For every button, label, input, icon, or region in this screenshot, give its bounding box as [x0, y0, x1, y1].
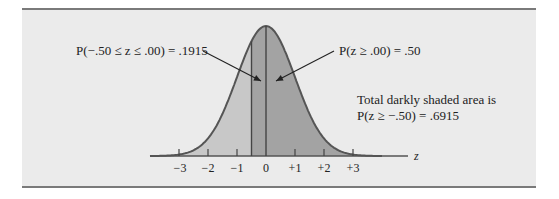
- tick-label-pos3: +3: [347, 161, 360, 175]
- tick-label-0: 0: [263, 161, 269, 175]
- tick-label-neg1: −1: [231, 161, 244, 175]
- axis-label-z: z: [413, 149, 419, 163]
- annotation-right-probability: P(z ≥ .00) = .50: [339, 43, 421, 58]
- light-shaded-area: [150, 41, 252, 156]
- tick-label-pos1: +1: [289, 161, 302, 175]
- tick-label-neg2: −2: [202, 161, 215, 175]
- annotation-left-probability: P(−.50 ≤ z ≤ .00) = .1915: [76, 43, 208, 58]
- tick-label-neg3: −3: [174, 161, 187, 175]
- annotation-total-line1: Total darkly shaded area is: [357, 92, 496, 107]
- tick-label-pos2: +2: [318, 161, 331, 175]
- normal-curve-diagram: −3 −2 −1 0 +1 +2 +3 z P(−.50 ≤ z ≤ .00) …: [0, 0, 559, 199]
- annotation-total-line2: P(z ≥ −.50) = .6915: [357, 108, 459, 123]
